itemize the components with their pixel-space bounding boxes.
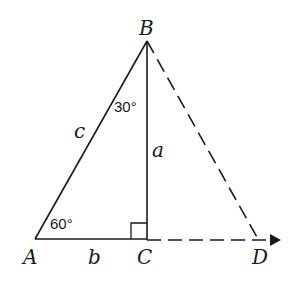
angle-label-a: 60° — [50, 216, 73, 231]
side-label-c: c — [74, 121, 85, 141]
vertex-label-d: D — [252, 247, 268, 267]
vertex-label-a: A — [23, 247, 37, 267]
vertex-label-b: B — [139, 18, 154, 38]
angle-label-b: 30° — [114, 99, 137, 114]
side-label-a: a — [152, 140, 164, 160]
right-angle-marker-icon — [131, 223, 147, 239]
arrow-head-icon — [270, 234, 281, 246]
side-ab — [35, 41, 147, 239]
vertex-label-c: C — [137, 247, 152, 267]
side-label-b: b — [88, 247, 101, 267]
triangle-diagram: B A C D c a b 30° 60° — [0, 0, 298, 301]
